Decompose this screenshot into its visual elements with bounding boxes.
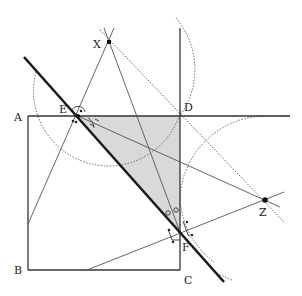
line-bc-to-z [87, 192, 284, 270]
angle-dot-e2 [75, 121, 78, 124]
label-x: X [93, 38, 101, 51]
point-x [107, 40, 111, 44]
point-z [262, 197, 268, 203]
label-b: B [14, 264, 22, 277]
angle-dot-f1 [168, 229, 170, 231]
angle-dot-f4 [191, 234, 193, 236]
dotted-circle-z [180, 116, 290, 200]
label-z: Z [259, 206, 267, 219]
label-c: C [184, 274, 192, 287]
point-e [76, 114, 80, 118]
label-e: E [59, 103, 67, 116]
angle-dot-f2 [172, 241, 174, 243]
label-d: D [184, 101, 193, 114]
thick-line-ef [24, 57, 224, 282]
label-a: A [13, 111, 23, 124]
angle-dot-e3 [80, 110, 83, 113]
geometry-diagram: A B C D E F X Z [0, 0, 302, 296]
angle-dot-f3 [186, 221, 188, 223]
angle-dot-e1 [72, 120, 75, 123]
label-f: F [182, 241, 190, 254]
